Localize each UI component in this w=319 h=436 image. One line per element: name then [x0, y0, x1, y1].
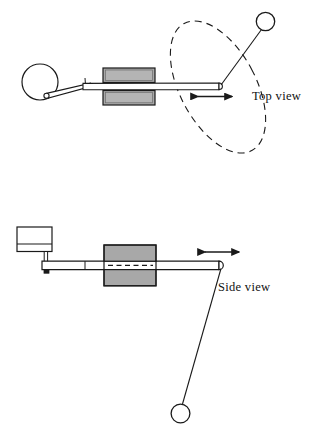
- rod-pivot-pin: [44, 270, 49, 274]
- pendulum-ball: [256, 12, 274, 30]
- slider-block-upper-inner: [106, 70, 153, 81]
- pendulum-ball: [171, 404, 190, 423]
- mechanism-diagram-canvas: Top view: [0, 0, 319, 436]
- mechanism-figure: Top view: [0, 0, 319, 436]
- side-view-label: Side view: [218, 280, 270, 294]
- top-view-label: Top view: [252, 89, 301, 103]
- main-rod-end-cap: [219, 261, 223, 269]
- main-rod: [83, 83, 219, 90]
- slider-block-lower-inner: [106, 92, 153, 103]
- motor-box: [17, 227, 52, 252]
- slider-block-lower-band: [104, 270, 156, 286]
- main-rod: [42, 261, 219, 269]
- crank-pin-joint: [44, 93, 49, 98]
- slider-block-upper-band: [104, 245, 156, 261]
